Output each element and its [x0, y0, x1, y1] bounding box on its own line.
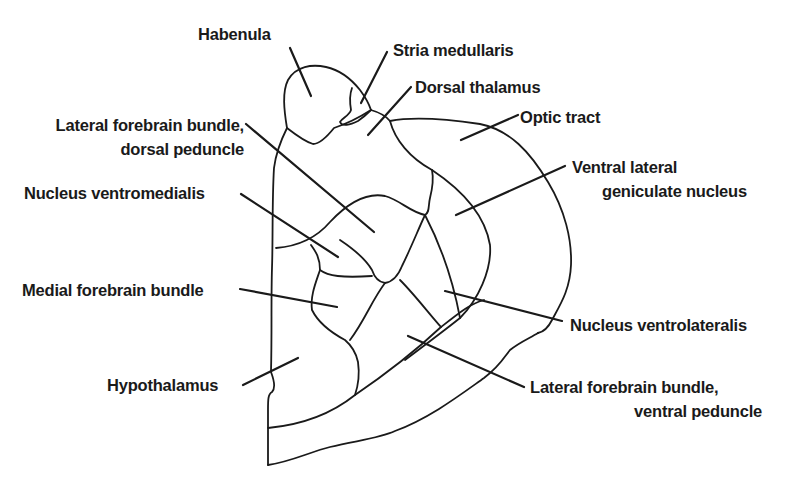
- habenula-outline: [284, 66, 371, 144]
- label-habenula: Habenula: [198, 22, 271, 46]
- label-lateral-forebrain-bundle-ventral: Lateral forebrain bundle, ventral pedunc…: [530, 375, 762, 423]
- label-nucleus-ventromedialis: Nucleus ventromedialis: [24, 181, 205, 205]
- lfb-dorsal-peduncle-outline: [276, 195, 425, 248]
- lfb-ventral-leader: [408, 336, 524, 387]
- ventral-border: [268, 333, 538, 465]
- label-nucleus-ventrolateralis: Nucleus ventrolateralis: [570, 313, 747, 337]
- stria-medullaris-leader: [361, 52, 387, 103]
- ventrolateral-lower-divider: [400, 280, 441, 327]
- label-ventral-lateral-geniculate: Ventral lateral geniculate nucleus: [572, 155, 747, 203]
- lfb-dorsal-peduncle-lower-outline: [340, 215, 425, 283]
- nucleus-ventromedialis-leader: [241, 194, 338, 257]
- medial-forebrain-bundle-leader: [240, 289, 337, 307]
- label-hypothalamus: Hypothalamus: [107, 373, 218, 397]
- dorsal-thalamus-boundary: [425, 170, 433, 215]
- label-dorsal-thalamus: Dorsal thalamus: [415, 75, 540, 99]
- ventral-lateral-geniculate-leader: [456, 166, 565, 215]
- optic-tract-inner-border: [371, 110, 490, 360]
- label-medial-forebrain-bundle: Medial forebrain bundle: [22, 278, 204, 302]
- hypothalamus-boundary: [268, 300, 484, 428]
- habenula-leader: [290, 48, 311, 96]
- label-stria-medullaris: Stria medullaris: [393, 38, 514, 62]
- geniculate-divider: [425, 215, 460, 318]
- medial-forebrain-bundle-outline: [312, 270, 359, 395]
- label-optic-tract: Optic tract: [520, 105, 600, 129]
- lfb-dorsal-leader: [246, 124, 374, 232]
- label-lateral-forebrain-bundle-dorsal: Lateral forebrain bundle, dorsal peduncl…: [26, 113, 244, 161]
- ventrolateral-divider: [350, 283, 385, 340]
